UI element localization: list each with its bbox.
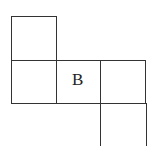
face-label-b: B: [72, 70, 83, 90]
square-middle-right: [100, 60, 146, 104]
square-bottom-right: [100, 103, 147, 146]
square-middle-left: [11, 60, 57, 104]
square-top-left: [11, 16, 57, 61]
